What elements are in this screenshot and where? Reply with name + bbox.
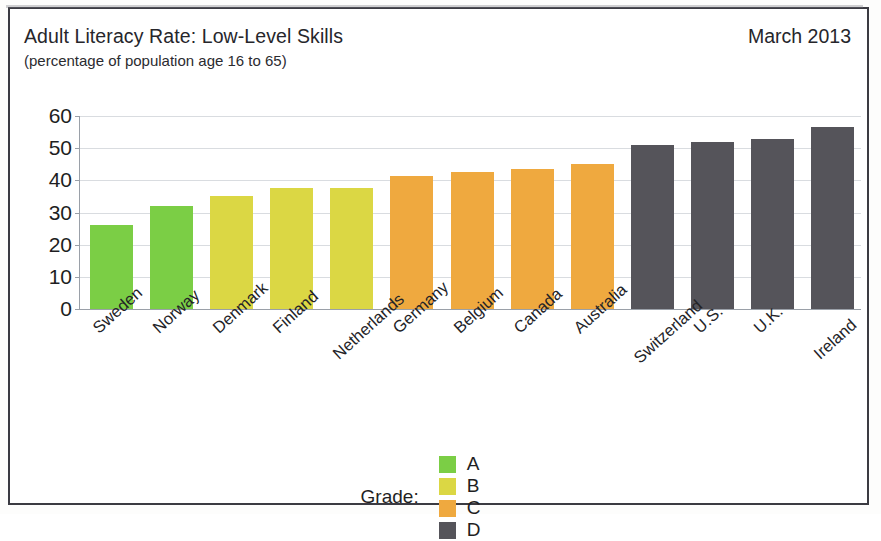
y-tick-mark <box>75 180 80 181</box>
bar-ireland <box>811 127 854 309</box>
legend-label: B <box>467 475 480 497</box>
y-axis-labels: 0102030405060 <box>22 116 72 309</box>
y-axis-tick-label: 60 <box>49 104 72 128</box>
chart-legend: Grade: ABCD <box>10 453 867 541</box>
y-tick-mark <box>75 116 80 117</box>
bar-netherlands <box>330 188 373 309</box>
y-tick-mark <box>75 148 80 149</box>
legend-swatch-icon <box>439 456 456 473</box>
y-tick-mark <box>75 277 80 278</box>
x-axis-labels: SwedenNorwayDenmarkFinlandNetherlandsGer… <box>79 309 869 419</box>
legend-swatch-icon <box>439 500 456 517</box>
chart-frame: Adult Literacy Rate: Low-Level Skills (p… <box>8 7 869 505</box>
chart-plot-area: 0102030405060 SwedenNorwayDenmarkFinland… <box>10 9 867 503</box>
y-axis-tick-label: 30 <box>49 201 72 225</box>
legend-item-d: D <box>439 519 517 541</box>
y-axis-tick-label: 20 <box>49 233 72 257</box>
bar-series <box>79 116 861 309</box>
y-axis-tick-label: 0 <box>60 297 72 321</box>
legend-item-a: A <box>439 453 481 475</box>
legend-label: C <box>467 497 481 519</box>
legend-items: ABCD <box>439 453 517 541</box>
bar-u-k <box>751 139 794 309</box>
legend-title: Grade: <box>361 486 419 508</box>
legend-item-b: B <box>439 475 481 497</box>
y-axis-tick-label: 50 <box>49 136 72 160</box>
bar-australia <box>571 164 614 309</box>
plot-canvas <box>79 116 861 309</box>
legend-item-c: C <box>439 497 481 519</box>
legend-swatch-icon <box>439 478 456 495</box>
bar-u-s <box>691 142 734 309</box>
x-axis-label-ireland: Ireland <box>810 315 860 363</box>
y-axis-tick-label: 40 <box>49 168 72 192</box>
y-tick-mark <box>75 245 80 246</box>
legend-label: D <box>467 519 481 541</box>
y-axis-tick-label: 10 <box>49 265 72 289</box>
legend-swatch-icon <box>439 522 456 539</box>
bar-switzerland <box>631 145 674 309</box>
y-tick-mark <box>75 213 80 214</box>
legend-label: A <box>467 453 480 475</box>
